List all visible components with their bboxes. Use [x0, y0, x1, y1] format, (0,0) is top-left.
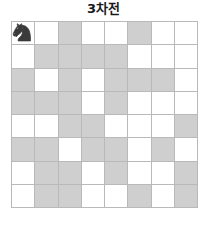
board-cell-r6-c6[interactable]: [128, 138, 151, 161]
board-cell-r6-c7[interactable]: [152, 138, 175, 161]
board-cell-r7-c8[interactable]: [175, 162, 198, 185]
board-cell-r2-c2[interactable]: [35, 45, 58, 68]
board-cell-r2-c4[interactable]: [82, 45, 105, 68]
board-cell-r2-c1[interactable]: [12, 45, 35, 68]
board-cell-r1-c1[interactable]: [12, 22, 35, 45]
board-cell-r3-c4[interactable]: [82, 69, 105, 92]
board-cell-r5-c8[interactable]: [175, 115, 198, 138]
puzzle-page: 3차전: [0, 0, 207, 230]
board-cell-r4-c5[interactable]: [105, 92, 128, 115]
board-cell-r3-c7[interactable]: [152, 69, 175, 92]
board-cell-r5-c7[interactable]: [152, 115, 175, 138]
board-cell-r8-c3[interactable]: [59, 185, 82, 208]
board-cell-r5-c4[interactable]: [82, 115, 105, 138]
board-cell-r1-c8[interactable]: [175, 22, 198, 45]
board-cell-r4-c1[interactable]: [12, 92, 35, 115]
board-cell-r8-c7[interactable]: [152, 185, 175, 208]
board-cell-r3-c6[interactable]: [128, 69, 151, 92]
board-cell-r1-c2[interactable]: [35, 22, 58, 45]
knight-icon[interactable]: [12, 22, 34, 44]
board-cell-r8-c5[interactable]: [105, 185, 128, 208]
board-cell-r2-c5[interactable]: [105, 45, 128, 68]
board-cell-r1-c3[interactable]: [59, 22, 82, 45]
board-cell-r5-c6[interactable]: [128, 115, 151, 138]
board-cell-r6-c5[interactable]: [105, 138, 128, 161]
board-cell-r4-c3[interactable]: [59, 92, 82, 115]
board-cell-r7-c1[interactable]: [12, 162, 35, 185]
board-cell-r2-c8[interactable]: [175, 45, 198, 68]
board-cell-r3-c1[interactable]: [12, 69, 35, 92]
board-cell-r3-c5[interactable]: [105, 69, 128, 92]
page-title: 3차전: [0, 1, 207, 17]
board-cell-r6-c1[interactable]: [12, 138, 35, 161]
chess-board[interactable]: [11, 21, 198, 208]
board-cell-r1-c5[interactable]: [105, 22, 128, 45]
board-cell-r7-c3[interactable]: [59, 162, 82, 185]
board-cell-r1-c6[interactable]: [128, 22, 151, 45]
board-cell-r5-c3[interactable]: [59, 115, 82, 138]
board-cell-r7-c6[interactable]: [128, 162, 151, 185]
board-cell-r6-c3[interactable]: [59, 138, 82, 161]
board-cell-r6-c8[interactable]: [175, 138, 198, 161]
board-cell-r3-c3[interactable]: [59, 69, 82, 92]
board-cell-r1-c7[interactable]: [152, 22, 175, 45]
board-cell-r5-c1[interactable]: [12, 115, 35, 138]
board-cell-r5-c5[interactable]: [105, 115, 128, 138]
board-cell-r5-c2[interactable]: [35, 115, 58, 138]
board-cell-r8-c8[interactable]: [175, 185, 198, 208]
board-cell-r2-c7[interactable]: [152, 45, 175, 68]
board-cell-r7-c4[interactable]: [82, 162, 105, 185]
board-cell-r6-c4[interactable]: [82, 138, 105, 161]
board-cell-r4-c8[interactable]: [175, 92, 198, 115]
board-cell-r4-c2[interactable]: [35, 92, 58, 115]
board-cell-r8-c4[interactable]: [82, 185, 105, 208]
board-cell-r7-c7[interactable]: [152, 162, 175, 185]
chess-board-container: [11, 21, 198, 208]
board-cell-r8-c2[interactable]: [35, 185, 58, 208]
board-cell-r8-c6[interactable]: [128, 185, 151, 208]
board-cell-r2-c3[interactable]: [59, 45, 82, 68]
board-cell-r3-c8[interactable]: [175, 69, 198, 92]
board-cell-r3-c2[interactable]: [35, 69, 58, 92]
board-cell-r4-c4[interactable]: [82, 92, 105, 115]
board-cell-r7-c2[interactable]: [35, 162, 58, 185]
board-cell-r8-c1[interactable]: [12, 185, 35, 208]
board-cell-r7-c5[interactable]: [105, 162, 128, 185]
board-cell-r6-c2[interactable]: [35, 138, 58, 161]
board-cell-r1-c4[interactable]: [82, 22, 105, 45]
board-cell-r2-c6[interactable]: [128, 45, 151, 68]
board-cell-r4-c6[interactable]: [128, 92, 151, 115]
board-cell-r4-c7[interactable]: [152, 92, 175, 115]
